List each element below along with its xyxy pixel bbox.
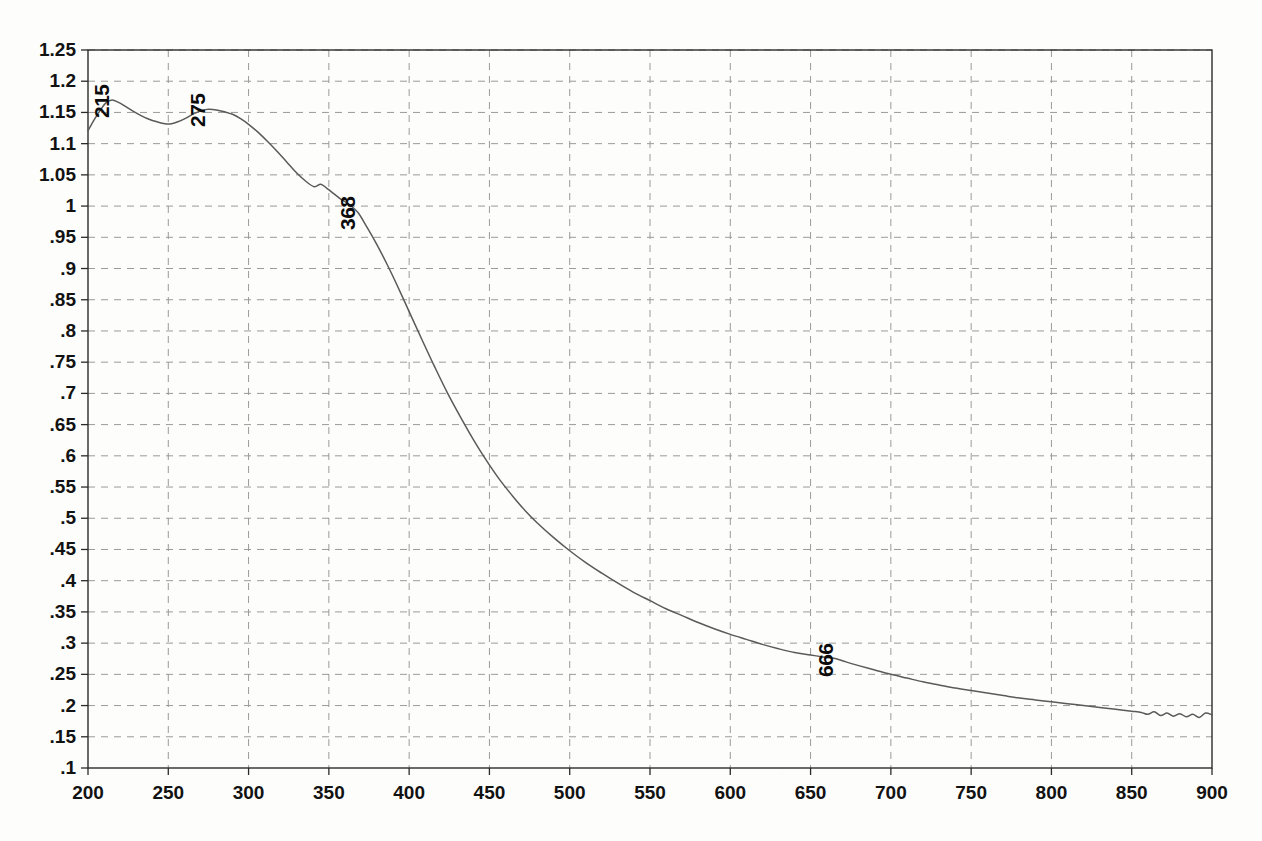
x-axis-tick-label: 400 xyxy=(393,782,425,804)
peak-annotation-666: 666 xyxy=(814,643,838,677)
x-axis-tick-label: 200 xyxy=(72,782,104,804)
y-axis-tick-label: .3 xyxy=(60,632,76,654)
y-axis-tick-label: .15 xyxy=(50,726,76,748)
peak-annotation-215: 215 xyxy=(90,84,114,118)
x-axis-tick-label: 250 xyxy=(152,782,184,804)
y-axis-tick-label: .8 xyxy=(60,320,76,342)
y-axis-tick-label: 1.1 xyxy=(50,133,76,155)
x-axis-tick-label: 450 xyxy=(474,782,506,804)
y-axis-tick-label: 1.2 xyxy=(50,70,76,92)
peak-annotation-368: 368 xyxy=(336,197,360,231)
y-axis-tick-label: .1 xyxy=(60,757,76,779)
spectrum-page: .1.15.2.25.3.35.4.45.5.55.6.65.7.75.8.85… xyxy=(0,0,1262,841)
x-axis-tick-label: 800 xyxy=(1036,782,1068,804)
y-axis-tick-label: .95 xyxy=(50,226,76,248)
y-axis-tick-label: .25 xyxy=(50,663,76,685)
y-axis-tick-label: 1.15 xyxy=(39,101,76,123)
x-axis-tick-label: 850 xyxy=(1116,782,1148,804)
y-axis-tick-label: .35 xyxy=(50,601,76,623)
y-axis-tick-label: .2 xyxy=(60,695,76,717)
y-axis-tick-label: .5 xyxy=(60,507,76,529)
x-axis-tick-label: 750 xyxy=(955,782,987,804)
y-axis-tick-label: 1 xyxy=(65,195,76,217)
y-axis-tick-label: .75 xyxy=(50,351,76,373)
x-axis-tick-label: 500 xyxy=(554,782,586,804)
y-axis-tick-label: .45 xyxy=(50,538,76,560)
x-axis-tick-label: 300 xyxy=(233,782,265,804)
y-axis-tick-label: .65 xyxy=(50,414,76,436)
absorption-spectrum-chart: .1.15.2.25.3.35.4.45.5.55.6.65.7.75.8.85… xyxy=(0,0,1262,841)
peak-annotation-275: 275 xyxy=(186,94,210,128)
x-axis-tick-label: 600 xyxy=(714,782,746,804)
y-axis-tick-label: .55 xyxy=(50,476,76,498)
x-axis-tick-label: 900 xyxy=(1196,782,1228,804)
y-axis-tick-label: .4 xyxy=(60,570,76,592)
y-axis-tick-label: 1.25 xyxy=(39,39,76,61)
x-axis-tick-label: 350 xyxy=(313,782,345,804)
x-axis-tick-label: 650 xyxy=(795,782,827,804)
y-axis-tick-label: .7 xyxy=(60,382,76,404)
x-axis-tick-label: 550 xyxy=(634,782,666,804)
y-axis-tick-label: .9 xyxy=(60,258,76,280)
y-axis-tick-label: .6 xyxy=(60,445,76,467)
tick-marks xyxy=(81,50,1212,775)
y-axis-tick-label: .85 xyxy=(50,289,76,311)
y-axis-tick-label: 1.05 xyxy=(39,164,76,186)
grid-lines xyxy=(88,50,1212,768)
x-axis-tick-label: 700 xyxy=(875,782,907,804)
